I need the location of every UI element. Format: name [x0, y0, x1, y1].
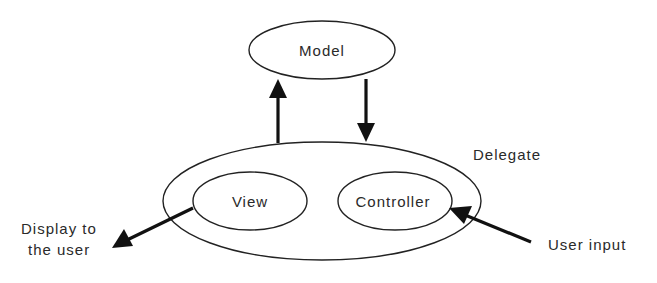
delegate-node: [163, 142, 481, 260]
arrow-input-to-controller: [449, 206, 531, 242]
arrow-down-from-model: [357, 79, 375, 142]
model-label: Model: [299, 42, 345, 59]
display-label-line1: Display to: [21, 220, 97, 237]
arrowhead-up-icon: [269, 79, 287, 98]
delegate-ellipse: [163, 142, 481, 260]
model-node: Model: [249, 21, 395, 79]
view-node: View: [193, 172, 307, 230]
view-label: View: [232, 193, 268, 210]
mvc-diagram: Model Delegate View Controller Display t…: [0, 0, 657, 283]
delegate-label: Delegate: [473, 146, 541, 163]
user-input-label: User input: [548, 236, 626, 253]
arrow-up-to-model: [269, 79, 287, 143]
display-label-line2: the user: [28, 241, 90, 258]
controller-label: Controller: [355, 193, 430, 210]
controller-node: Controller: [338, 172, 452, 230]
arrowhead-down-icon: [357, 123, 375, 142]
